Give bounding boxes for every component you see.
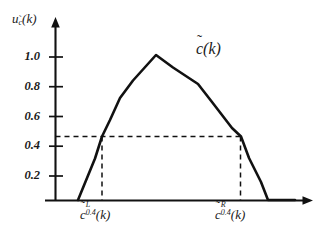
tilde-icon: ˜ — [216, 200, 220, 212]
tilde-icon: ˜ — [81, 200, 85, 212]
curve-label-argument: (k) — [203, 40, 221, 57]
y-tick-label-0.8: 0.8 — [6, 80, 40, 93]
x-label-right-subscript: 0.4 — [221, 209, 231, 217]
tilde-icon: ˜ — [19, 15, 22, 23]
y-axis-title-argument: (k) — [22, 11, 36, 26]
x-axis-arrowhead — [303, 196, 314, 205]
y-tick-label-1.0: 1.0 — [6, 50, 40, 63]
figure-container: uc˜(k) 1.0 0.8 0.6 0.4 0.2 c˜(k) c˜L0.4(… — [0, 0, 325, 235]
y-tick-label-0.6: 0.6 — [6, 110, 40, 123]
membership-curve — [78, 55, 295, 200]
x-axis-label-right-alpha-cut: c˜R0.4(k) — [215, 205, 245, 221]
y-axis-group — [51, 17, 60, 200]
curve-label: c˜(k) — [196, 41, 221, 57]
y-axis-title: uc˜(k) — [12, 12, 37, 27]
x-label-right-argument: (k) — [231, 207, 245, 222]
x-axis-label-left-alpha-cut: c˜L0.4(k) — [80, 205, 110, 221]
x-label-left-subscript: 0.4 — [86, 209, 96, 217]
plot-svg — [0, 0, 325, 235]
y-axis-arrowhead — [51, 17, 60, 28]
y-tick-label-0.4: 0.4 — [6, 139, 40, 152]
x-label-left-argument: (k) — [96, 207, 110, 222]
y-tick-label-0.2: 0.2 — [6, 169, 40, 182]
tilde-icon: ˜ — [197, 32, 202, 47]
